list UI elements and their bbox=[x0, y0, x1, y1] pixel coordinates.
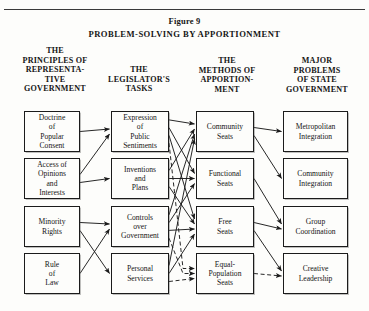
connector-c1r3-to-c2r3 bbox=[80, 223, 110, 225]
node-label: DoctrineofPopularConsent bbox=[38, 113, 67, 150]
node-label: MetropolitanIntegration bbox=[295, 122, 337, 140]
node-inventions-and-plans: InventionsandPlans bbox=[111, 158, 169, 199]
figure-page: Figure 9 PROBLEM-SOLVING BY APPORTIONMEN… bbox=[0, 0, 369, 311]
node-label: FreeSeats bbox=[216, 217, 234, 235]
connector-c3r3-to-c4r3 bbox=[254, 223, 282, 230]
node-group-coordination: GroupCoordination bbox=[283, 206, 348, 247]
node-doctrine-of-popular-consent: DoctrineofPopularConsent bbox=[24, 111, 80, 152]
node-community-seats: CommunitySeats bbox=[196, 111, 254, 152]
node-functional-seats: FunctionalSeats bbox=[196, 158, 254, 199]
node-metropolitan-integration: MetropolitanIntegration bbox=[283, 111, 348, 152]
node-minority-rights: MinorityRights bbox=[24, 206, 80, 247]
node-expression-of-public-sentiments: ExpressionofPublicSentiments bbox=[111, 111, 169, 152]
node-rule-of-law: RuleofLaw bbox=[24, 253, 80, 294]
node-label: GroupCoordination bbox=[294, 217, 336, 235]
node-label: PersonalServices bbox=[126, 264, 154, 282]
node-community-integration: CommunityIntegration bbox=[283, 158, 348, 199]
connector-c3r4-to-c4r4 bbox=[254, 274, 282, 277]
node-label: RuleofLaw bbox=[44, 260, 60, 288]
connector-c3r3-to-c4r4 bbox=[254, 231, 282, 272]
connector-c1r2-to-c2r1 bbox=[80, 134, 110, 175]
connector-c1r2-to-c2r2 bbox=[80, 179, 110, 183]
connector-c3r2-to-c4r3 bbox=[254, 179, 282, 225]
node-label: Access ofOpinionsandInterests bbox=[36, 160, 68, 197]
node-label: CommunityIntegration bbox=[296, 169, 334, 187]
node-controls-over-government: ControlsoverGovernment bbox=[111, 206, 169, 247]
connector-c3r1-to-c4r2 bbox=[254, 136, 282, 179]
connector-c2r1-to-c3r1 bbox=[169, 120, 195, 124]
node-equal-population-seats: Equal-PopulationSeats bbox=[196, 253, 254, 294]
node-access-of-opinions-and-interests: Access ofOpinionsandInterests bbox=[24, 158, 80, 199]
connector-c3r1-to-c4r1 bbox=[254, 128, 282, 132]
node-personal-services: PersonalServices bbox=[111, 253, 169, 294]
node-label: CommunitySeats bbox=[206, 122, 244, 140]
node-label: ControlsoverGovernment bbox=[120, 213, 160, 241]
node-label: InventionsandPlans bbox=[123, 165, 157, 193]
node-creative-leadership: CreativeLeadership bbox=[283, 253, 348, 294]
node-free-seats: FreeSeats bbox=[196, 206, 254, 247]
node-label: FunctionalSeats bbox=[208, 169, 242, 187]
connector-c2r4-to-c3r3 bbox=[169, 234, 195, 274]
connector-c2r3-to-c3r3 bbox=[169, 229, 195, 230]
node-label: Equal-PopulationSeats bbox=[208, 260, 243, 288]
node-label: MinorityRights bbox=[37, 217, 66, 235]
connector-c2r4-to-c3r4 bbox=[169, 279, 195, 282]
node-label: CreativeLeadership bbox=[298, 264, 334, 282]
connector-c1r1-to-c2r1 bbox=[80, 129, 110, 132]
node-label: ExpressionofPublicSentiments bbox=[122, 113, 158, 150]
